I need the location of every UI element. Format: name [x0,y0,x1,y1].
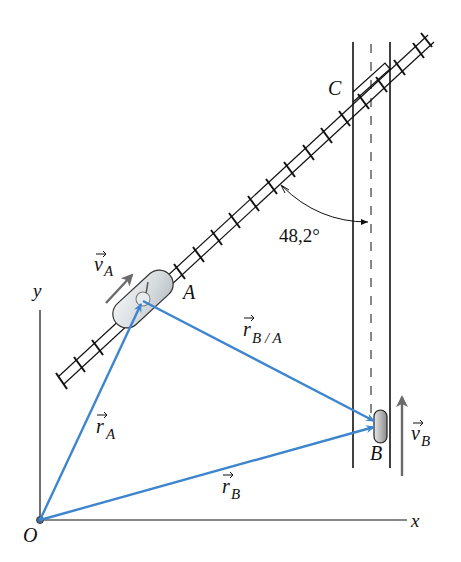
label-r-ba: r B / A [243,315,283,346]
x-axis-label: x [410,510,420,531]
point-b-label: B [370,442,382,464]
diagram-canvas: 48,2° x y O A B C r A [0,0,461,562]
label-v-a: v A [94,251,114,279]
svg-text:B / A: B / A [252,330,283,346]
svg-text:r: r [222,475,230,497]
svg-text:v: v [411,422,420,444]
svg-text:B: B [231,486,240,502]
angle-label: 48,2° [279,225,320,246]
label-r-a: r A [96,412,116,442]
origin-label: O [23,524,37,546]
svg-text:A: A [105,426,116,442]
point-c-label: C [328,77,342,99]
road [353,42,390,468]
svg-text:r: r [96,415,104,437]
position-vectors [40,301,374,520]
svg-text:A: A [103,263,114,279]
angle-indicator: 48,2° [279,185,368,246]
angle-arc [282,186,368,222]
label-r-b: r B [222,472,240,502]
vector-r-a [40,304,141,520]
svg-text:v: v [94,253,103,275]
svg-text:B: B [421,433,430,449]
point-a-label: A [181,281,196,303]
vector-r-ba [143,301,374,421]
vehicle-b: B [370,410,387,464]
y-axis-label: y [31,280,42,301]
vector-r-b [40,427,374,520]
label-v-b: v B [411,420,430,449]
svg-text:r: r [243,318,251,340]
